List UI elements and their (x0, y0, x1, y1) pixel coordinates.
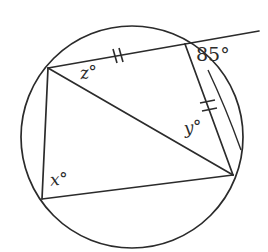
angle-label-x: x° (49, 170, 69, 189)
bottom-chord (42, 175, 233, 199)
diagonal-chord (48, 68, 233, 175)
degree-symbol-85: ° (220, 43, 230, 65)
geometry-canvas (0, 0, 268, 252)
angle-label-z: z° (79, 63, 99, 82)
angle-label-85: 85° (196, 45, 230, 64)
angle-label-y: y° (183, 118, 203, 137)
angle-label-85-value: 85 (196, 43, 220, 65)
left-chord (42, 68, 48, 199)
top-chord (48, 44, 185, 68)
degree-symbol-x: ° (59, 168, 69, 189)
geometry-figure: z° y° x° 85° (0, 0, 268, 252)
angle-arc-85 (208, 70, 241, 150)
tick-marks-right-chord (200, 100, 217, 111)
